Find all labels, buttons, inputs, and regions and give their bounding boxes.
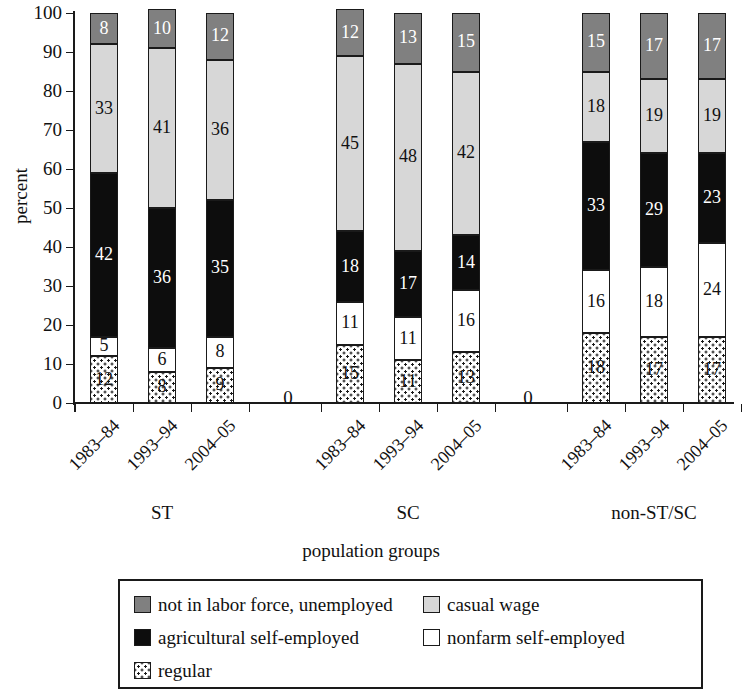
bar-segment-value: 8 <box>216 342 225 360</box>
legend: not in labor force, unemployed casual wa… <box>118 579 703 689</box>
bar-segment-value: 18 <box>645 292 663 310</box>
x-tick-mark <box>625 404 626 412</box>
bar-segment: 16 <box>582 270 610 332</box>
bar-segment-value: 33 <box>95 99 113 117</box>
bar-segment-value: 12 <box>211 26 229 44</box>
bar-segment-value: 8 <box>158 377 167 395</box>
bar-segment: 11 <box>336 302 364 345</box>
bar-segment: 13 <box>394 13 422 64</box>
bar-segment: 10 <box>148 9 176 48</box>
bar-segment-value: 10 <box>153 19 171 37</box>
y-tick-label: 40 <box>0 237 62 256</box>
bar-segment: 35 <box>206 200 234 337</box>
bar-segment: 17 <box>640 337 668 403</box>
bar-segment: 12 <box>336 9 364 56</box>
bar-segment: 18 <box>336 231 364 301</box>
bar-segment-value: 17 <box>703 36 721 54</box>
bar-segment: 18 <box>640 267 668 337</box>
bar-segment: 11 <box>394 317 422 360</box>
bar-segment-value: 11 <box>399 329 416 347</box>
x-tick-mark <box>74 404 75 412</box>
bar-segment: 8 <box>206 337 234 368</box>
bar-segment: 18 <box>582 333 610 403</box>
bar-segment: 8 <box>148 372 176 403</box>
bar-segment: 8 <box>90 13 118 44</box>
bar-segment: 17 <box>698 13 726 79</box>
group-separator-zero: 0 <box>278 388 298 407</box>
bar-segment: 11 <box>394 360 422 403</box>
bar-segment: 36 <box>148 208 176 348</box>
bar-segment: 15 <box>336 345 364 404</box>
stacked-bar-chart: percent 0102030405060708090100 125423388… <box>0 0 742 700</box>
bar-segment: 15 <box>582 13 610 72</box>
x-tick-mark <box>379 404 380 412</box>
y-tick-label: 60 <box>0 159 62 178</box>
bar-segment-value: 17 <box>703 360 721 378</box>
bar-segment-value: 17 <box>645 360 663 378</box>
bar-segment: 15 <box>452 13 480 72</box>
bar-segment: 9 <box>206 368 234 403</box>
bar-segment-value: 33 <box>587 196 605 214</box>
bar-segment-value: 5 <box>100 336 109 354</box>
stacked-bar: 1511184512 <box>336 13 364 403</box>
x-group-label: SC <box>328 503 488 522</box>
bar-segment-value: 45 <box>341 134 359 152</box>
x-axis-title: population groups <box>0 540 742 562</box>
x-tick-mark <box>75 404 76 412</box>
legend-item-agricultural-self-employed: agricultural self-employed <box>134 628 359 647</box>
x-tick-mark <box>683 404 684 412</box>
bar-segment-value: 48 <box>399 147 417 165</box>
stacked-bar: 1724231917 <box>698 13 726 403</box>
bar-segment-value: 35 <box>211 258 229 276</box>
white-swatch <box>423 629 440 646</box>
legend-item-not-in-labor-force: not in labor force, unemployed <box>134 595 393 614</box>
bar-segment-value: 17 <box>645 36 663 54</box>
y-tick-label: 100 <box>0 3 62 22</box>
x-group-label: non-ST/SC <box>574 503 734 522</box>
bar-segment: 19 <box>698 79 726 153</box>
legend-label: regular <box>158 661 212 680</box>
bar-segment-value: 19 <box>645 106 663 124</box>
bar-segment-value: 8 <box>100 19 109 37</box>
stacked-bar: 1316144215 <box>452 13 480 403</box>
bar-segment: 13 <box>452 352 480 403</box>
x-tick-mark <box>495 404 496 412</box>
bar-segment-value: 15 <box>457 32 475 50</box>
bar-segment-value: 6 <box>158 350 167 368</box>
bar-segment-value: 11 <box>341 313 358 331</box>
bar-segment: 16 <box>452 290 480 352</box>
bar-segment-value: 42 <box>95 245 113 263</box>
bar-segment: 14 <box>452 235 480 290</box>
bar-segment-value: 15 <box>587 32 605 50</box>
bar-segment-value: 13 <box>399 28 417 46</box>
bar-segment: 17 <box>394 251 422 317</box>
y-tick-label: 10 <box>0 354 62 373</box>
bar-segment-value: 19 <box>703 106 721 124</box>
bar-segment-value: 16 <box>587 292 605 310</box>
bar-segment-value: 36 <box>211 120 229 138</box>
bar-segment-value: 14 <box>457 253 475 271</box>
bar-segment: 33 <box>582 142 610 271</box>
bar-segment-value: 23 <box>703 188 721 206</box>
bar-segment: 29 <box>640 153 668 266</box>
dotted-swatch <box>134 662 151 679</box>
x-tick-mark <box>567 404 568 412</box>
bar-segment: 17 <box>640 13 668 79</box>
legend-item-nonfarm-self-employed: nonfarm self-employed <box>423 628 625 647</box>
bar-segment-value: 29 <box>645 200 663 218</box>
bar-segment: 42 <box>452 72 480 236</box>
group-separator-zero: 0 <box>518 388 538 407</box>
gray-dark-swatch <box>134 596 151 613</box>
bar-segment: 41 <box>148 48 176 208</box>
stacked-bar: 1111174813 <box>394 13 422 403</box>
bar-segment: 6 <box>148 348 176 371</box>
stacked-bar: 86364110 <box>148 13 176 403</box>
stacked-bar: 1718291917 <box>640 13 668 403</box>
bar-segment-value: 18 <box>341 257 359 275</box>
y-tick-label: 70 <box>0 120 62 139</box>
x-tick-mark <box>249 404 250 412</box>
bar-segment: 5 <box>90 337 118 357</box>
legend-label: casual wage <box>447 595 539 614</box>
bar-segment-value: 42 <box>457 143 475 161</box>
y-tick-label: 90 <box>0 42 62 61</box>
